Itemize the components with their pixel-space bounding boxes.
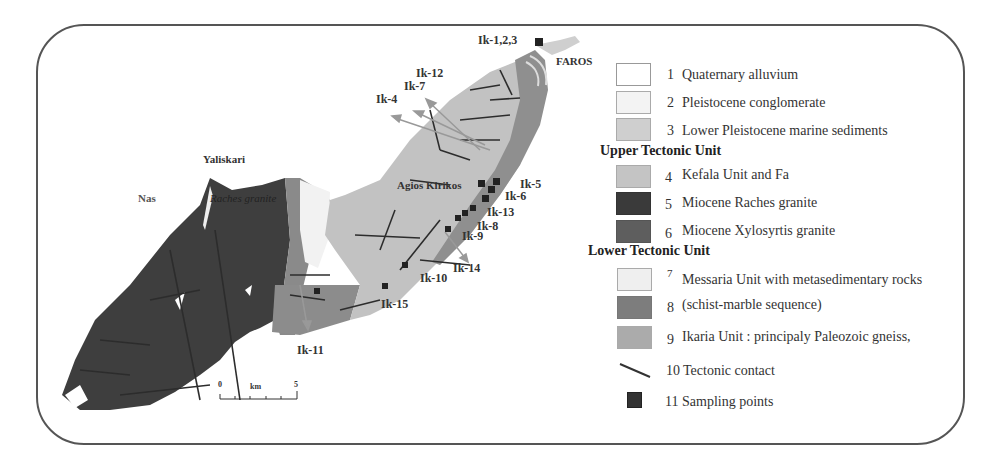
- legend-num-6: 6: [665, 227, 672, 241]
- label-yaliskari: Yaliskari: [203, 154, 245, 165]
- legend-label-10: Tectonic contact: [683, 364, 775, 378]
- label-nas: Nas: [138, 193, 156, 204]
- label-ik-7: Ik-7: [404, 80, 425, 92]
- legend-swatch-9: [617, 326, 652, 349]
- scale-end: 5: [294, 380, 298, 389]
- legend-label-1: Quaternary alluvium: [682, 68, 798, 82]
- legend-label-7: Messaria Unit with metasedimentary rocks: [682, 273, 922, 287]
- legend-label-2: Pleistocene conglomerate: [682, 96, 825, 110]
- label-faros: FAROS: [556, 56, 592, 67]
- legend-label-8: (schist-marble sequence): [682, 298, 822, 312]
- legend-label-3: Lower Pleistocene marine sediments: [682, 124, 888, 138]
- legend-num-10: 10: [666, 364, 680, 378]
- legend-num-7: 7: [667, 268, 673, 279]
- legend-group-upper: Upper Tectonic Unit: [600, 144, 721, 158]
- legend-label-9: Ikaria Unit : principaly Paleozoic gneis…: [682, 330, 911, 344]
- legend-num-1: 1: [667, 68, 674, 82]
- legend-num-2: 2: [667, 96, 674, 110]
- label-ik-6: Ik-6: [505, 190, 526, 202]
- legend-num-4: 4: [665, 171, 672, 185]
- legend-swatch-8: [617, 296, 652, 319]
- legend-swatch-1: [616, 63, 651, 86]
- legend-sampling-point-icon: [627, 392, 642, 408]
- legend-tectonic-line-icon: [620, 364, 650, 377]
- legend-swatch-7: [617, 268, 652, 291]
- scale-start: 0: [218, 380, 222, 389]
- label-raches-granite: Raches granite: [210, 193, 276, 204]
- label-ik-4: Ik-4: [376, 93, 397, 105]
- legend-num-5: 5: [665, 198, 672, 212]
- label-ik-15: Ik-15: [381, 298, 408, 310]
- legend-num-9: 9: [667, 333, 674, 347]
- legend-label-5: Miocene Raches granite: [682, 196, 817, 210]
- legend-label-4: Kefala Unit and Fa: [682, 168, 789, 182]
- label-ik-1-2-3: Ik-1,2,3: [478, 34, 517, 46]
- legend-label-11: Sampling points: [682, 395, 773, 409]
- label-ik-10: Ik-10: [420, 272, 447, 284]
- label-ik-14: Ik-14: [453, 262, 480, 274]
- geological-map: [0, 0, 998, 468]
- legend-num-8: 8: [667, 301, 674, 315]
- legend-swatch-2: [616, 91, 651, 114]
- label-ik-12: Ik-12: [416, 67, 443, 79]
- legend-num-11: 11: [665, 395, 678, 409]
- legend-swatch-6: [616, 220, 651, 243]
- label-ik-13: Ik-13: [487, 206, 514, 218]
- scale-unit: km: [250, 382, 261, 391]
- label-ik-11: Ik-11: [297, 344, 324, 356]
- legend-swatch-4: [616, 165, 651, 188]
- legend-num-3: 3: [667, 124, 674, 138]
- legend-label-6: Miocene Xylosyrtis granite: [682, 224, 835, 238]
- scale-bar: [220, 391, 297, 399]
- label-ik-9: Ik-9: [462, 230, 483, 242]
- label-agios-kirikos: Agios Kirikos: [397, 180, 461, 191]
- legend-swatch-5: [616, 192, 651, 215]
- legend-swatch-3: [616, 118, 651, 141]
- legend-group-lower: Lower Tectonic Unit: [588, 244, 710, 258]
